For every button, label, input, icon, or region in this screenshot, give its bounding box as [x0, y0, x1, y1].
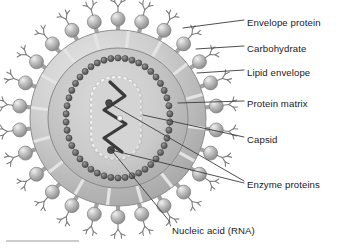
carbohydrate-branch — [4, 70, 18, 83]
capsid-pointer-target — [117, 115, 122, 120]
capsid-bead — [69, 143, 75, 149]
capsid-bead — [122, 55, 128, 61]
capsid-bead — [69, 87, 75, 93]
capsid-bead — [82, 161, 88, 167]
carbohydrate-branch — [83, 0, 97, 15]
capsid-bead — [108, 55, 114, 61]
capsid-bead — [148, 161, 154, 167]
label-envelope-protein: Envelope protein — [247, 18, 321, 28]
capsid-bead — [63, 111, 69, 117]
spike-head-sphere — [65, 199, 79, 213]
spike-head-sphere — [111, 210, 125, 224]
spike-head-sphere — [135, 207, 149, 221]
label-protein-matrix: Protein matrix — [247, 99, 308, 109]
capsid-bead — [94, 170, 100, 176]
capsid-bead — [164, 95, 170, 101]
carbohydrate-branch — [0, 125, 13, 139]
capsid-bead — [161, 143, 167, 149]
carbohydrate-branch — [205, 45, 219, 57]
spike-head-sphere — [157, 23, 171, 37]
capsid-bead — [72, 150, 78, 156]
capsid-bead — [136, 60, 142, 66]
capsid-bead — [72, 80, 78, 86]
carbohydrate-branch — [111, 0, 125, 12]
capsid-bead — [101, 57, 107, 63]
capsid-bead — [101, 173, 107, 179]
capsid-bead — [64, 103, 70, 109]
leader-envelope-protein — [183, 20, 244, 28]
capsid-bead — [115, 175, 121, 181]
lipid-envelope-segment-divider — [126, 31, 128, 48]
leader-lipid-envelope — [197, 70, 244, 73]
carbohydrate-branch — [17, 45, 31, 57]
spike-head-sphere — [30, 167, 44, 181]
capsid-bead — [82, 68, 88, 74]
capsid-bead — [77, 74, 83, 80]
spike-head-sphere — [18, 146, 32, 160]
carbohydrate-branch — [57, 10, 70, 24]
spike-head-sphere — [209, 99, 223, 113]
capsid-bead — [148, 68, 154, 74]
label-enzyme-proteins: Enzyme proteins — [247, 180, 320, 190]
capsid-bead — [94, 60, 100, 66]
spike-head-sphere — [65, 23, 79, 37]
spike-head-sphere — [192, 167, 206, 181]
label-nucleic-acid: Nucleic acid (RNA) — [172, 226, 255, 236]
carbohydrate-branch — [166, 212, 179, 226]
spike-head-sphere — [204, 76, 218, 90]
spike-head-sphere — [204, 146, 218, 160]
capsid-bead — [161, 87, 167, 93]
capsid-bead — [142, 166, 148, 172]
capsid-bead — [88, 166, 94, 172]
carbohydrate-branch — [223, 97, 237, 111]
spike-head-sphere — [157, 199, 171, 213]
carbohydrate-branch — [35, 25, 48, 38]
capsid-bead — [157, 80, 163, 86]
capsid-bead — [166, 103, 172, 109]
carbohydrate-branch — [205, 178, 219, 190]
label-lipid-envelope: Lipid envelope — [247, 68, 310, 78]
carbohydrate-branch — [166, 10, 179, 24]
capsid-bead — [142, 64, 148, 70]
spike-head-sphere — [111, 12, 125, 26]
carbohydrate-branch — [188, 197, 201, 210]
capsid-bead — [157, 150, 163, 156]
capsid-bead — [77, 156, 83, 162]
carbohydrate-branch — [0, 97, 13, 111]
carbohydrate-branch — [139, 0, 153, 15]
carbohydrate-branch — [139, 221, 153, 236]
capsid-bead — [122, 174, 128, 180]
spike-head-sphere — [192, 55, 206, 69]
virus-diagram — [0, 0, 339, 248]
lipid-envelope-segment-divider — [31, 108, 48, 110]
capsid-bead — [129, 57, 135, 63]
capsid-bead — [88, 64, 94, 70]
capsid-bead — [66, 95, 72, 101]
carbohydrate-branch — [35, 197, 48, 210]
spike-head-sphere — [13, 99, 27, 113]
carbohydrate-branch — [223, 125, 237, 139]
spike-head-sphere — [87, 207, 101, 221]
spike-head-sphere — [135, 15, 149, 29]
spike-head-sphere — [87, 15, 101, 29]
carbohydrate-branch — [4, 153, 18, 166]
carbohydrate-branch — [217, 153, 231, 166]
capsid-bead — [115, 55, 121, 61]
spike-head-sphere — [13, 123, 27, 137]
carbohydrate-branch — [17, 178, 31, 190]
spike-head-sphere — [30, 55, 44, 69]
carbohydrate-branch — [57, 212, 70, 226]
carbohydrate-branch — [111, 224, 125, 238]
label-capsid: Capsid — [247, 135, 277, 145]
lipid-envelope-segment-divider — [108, 188, 110, 205]
capsid-bead — [66, 135, 72, 141]
carbohydrate-branch — [83, 221, 97, 236]
leader-carbohydrate — [196, 46, 244, 49]
capsid-bead — [153, 74, 159, 80]
capsid-bead — [166, 127, 172, 133]
label-carbohydrate: Carbohydrate — [247, 44, 306, 54]
figure-canvas: Envelope protein Carbohydrate Lipid enve… — [0, 0, 339, 248]
capsid-bead — [167, 111, 173, 117]
capsid-bead — [63, 119, 69, 125]
capsid-bead — [136, 170, 142, 176]
